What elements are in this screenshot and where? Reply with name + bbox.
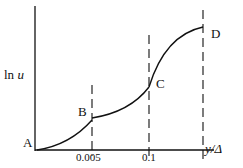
x-tick-0005: 0.005	[76, 152, 101, 163]
curve-b-c	[92, 87, 149, 118]
x-tick-01: 0.1	[142, 152, 156, 163]
velocity-profile-diagram: ln u y/Δ 0.005 0.1 A B C D	[0, 0, 243, 168]
curve-a-b	[37, 120, 92, 150]
point-label-c: C	[156, 77, 165, 90]
y-label-ln: ln	[4, 67, 14, 82]
x-axis-label: y/Δ	[205, 142, 222, 155]
y-axis-label: ln u	[4, 68, 24, 81]
point-label-d: D	[211, 27, 220, 40]
y-label-u: u	[17, 67, 24, 82]
point-label-b: B	[78, 105, 87, 118]
point-label-a: A	[23, 136, 32, 149]
